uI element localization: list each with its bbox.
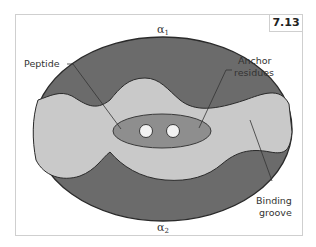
anchor-residue-2 [167,125,180,138]
peptide-label: Peptide [24,58,60,69]
anchor-residues-label-line1: Anchor [238,55,272,66]
alpha2-label: α2 [157,221,169,235]
binding-groove-label-line1: Binding [256,195,292,206]
mhc-binding-groove-diagram: α1 α2 Peptide Anchor residues Binding gr… [0,0,316,247]
alpha1-label: α1 [157,23,169,37]
anchor-residues-label-line2: residues [234,67,274,78]
binding-groove-label-line2: groove [259,207,292,218]
anchor-residue-1 [140,125,153,138]
peptide-shape [113,114,211,148]
